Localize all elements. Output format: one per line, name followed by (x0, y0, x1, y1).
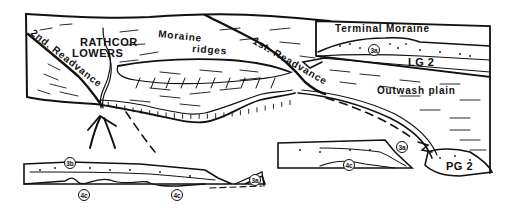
texture-dash (48, 64, 60, 70)
svg-text:4c: 4c (173, 192, 181, 199)
texture-dash (150, 88, 170, 90)
stipple-dot (349, 43, 351, 45)
unit-marker-4c-right: 4c (344, 160, 355, 171)
label-pg2: PG 2 (446, 160, 473, 172)
section-left-base (24, 178, 205, 186)
stipple-dot (189, 175, 191, 177)
label-outwash-plain: Outwash plain (377, 85, 456, 96)
texture-dash (330, 70, 350, 72)
texture-dash (50, 84, 66, 88)
unit-marker-3b-left: 3b (65, 158, 76, 169)
label-terminal-moraine: Terminal Moraine (335, 23, 430, 34)
glacial-diagram: RATHCOR LOWERS Moraine ridges 2nd. Readv… (0, 0, 513, 213)
unit-marker-3a-inset: 3a (369, 45, 380, 56)
upward-arrow-icon (88, 116, 116, 148)
section-left (24, 162, 265, 188)
stipple-dot (109, 169, 111, 171)
stipple-dot (419, 49, 421, 51)
section-left-dashed-base (210, 186, 262, 188)
label-moraine: Moraine (158, 28, 203, 44)
lobe-hachure (271, 78, 275, 88)
stipple-dot (397, 47, 399, 49)
unit-marker-3a-right: 3a (397, 142, 408, 153)
stipple-dot (299, 149, 301, 151)
texture-dash (190, 92, 210, 94)
inset-lower-layer (320, 58, 490, 72)
texture-dash (360, 74, 380, 76)
texture-dash (300, 56, 315, 58)
texture-dash (130, 100, 150, 102)
texture-dash (120, 30, 138, 32)
section-left-layer (30, 172, 215, 180)
inset-moraine-top (318, 38, 490, 52)
section-right-base (320, 161, 395, 168)
outwash-front-curve-inner (302, 90, 437, 155)
main-block-top-edge (26, 14, 330, 21)
texture-dash (200, 70, 222, 72)
stipple-dot (405, 43, 407, 45)
stipple-dot (129, 169, 131, 171)
unit-marker-3a-left: 3a (250, 175, 261, 186)
stipple-dot (39, 169, 41, 171)
lobe-hachure (226, 78, 230, 88)
stipple-dot (459, 53, 461, 55)
texture-dash (160, 96, 180, 98)
texture-dash (60, 24, 72, 25)
unit-marker-4c-left-1: 4c (79, 190, 90, 201)
stipple-dot (89, 167, 91, 169)
texture-dash (40, 28, 52, 30)
svg-text:3a: 3a (370, 47, 378, 54)
svg-text:4c: 4c (345, 162, 353, 169)
texture-dash (220, 88, 240, 90)
label-lg2: LG 2 (408, 56, 434, 68)
stipple-dot (389, 43, 391, 45)
label-ridges: ridges (192, 43, 227, 56)
unit-marker-4c-left-2: 4c (172, 190, 183, 201)
texture-dash (60, 92, 78, 96)
stipple-dot (439, 157, 441, 159)
circled-units: 3a 3b 4c 4c 3a 4c 3a (65, 45, 408, 201)
svg-text:3a: 3a (251, 177, 259, 184)
moraine-ridge-lobe (117, 66, 292, 84)
texture-dash (240, 70, 258, 72)
texture-dash (120, 60, 138, 62)
stipple-dot (339, 45, 341, 47)
lobe-hachure (136, 78, 140, 88)
section-left-outline (24, 162, 265, 184)
stipple-dot (454, 155, 456, 157)
svg-text:3b: 3b (66, 160, 74, 167)
texture-dash (160, 72, 180, 74)
lobe-hachure (181, 78, 185, 88)
projection-dashed-left (126, 112, 155, 152)
stipple-dot (159, 171, 161, 173)
svg-text:4c: 4c (80, 192, 88, 199)
stipple-dot (319, 151, 321, 153)
stipple-dot (469, 55, 471, 57)
texture-dash (140, 52, 158, 55)
texture-dash (400, 80, 420, 82)
stipple-dot (439, 51, 441, 53)
texture-dash (180, 104, 200, 106)
stipple-dot (359, 47, 361, 49)
texture-dash (270, 28, 290, 30)
texture-dash (38, 90, 50, 94)
stipple-dot (54, 167, 56, 169)
texture-dash (340, 82, 356, 84)
svg-text:3a: 3a (398, 144, 406, 151)
texture-dash (44, 74, 58, 80)
label-lowers: LOWERS (72, 47, 123, 59)
texture-dash (280, 42, 300, 44)
